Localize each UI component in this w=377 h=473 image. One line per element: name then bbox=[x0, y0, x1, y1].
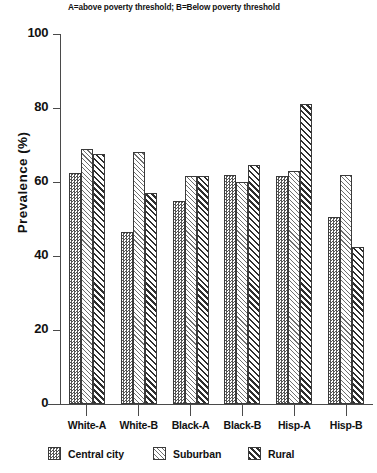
legend-item: Suburban bbox=[153, 447, 221, 460]
y-tick-mark bbox=[53, 182, 61, 183]
bar bbox=[236, 182, 248, 404]
bar bbox=[185, 176, 197, 404]
y-axis-title: Prevalence (%) bbox=[15, 83, 30, 283]
bar bbox=[69, 173, 81, 404]
x-tick-mark bbox=[346, 405, 347, 416]
bar bbox=[133, 152, 145, 404]
bar bbox=[173, 201, 185, 405]
y-tick-mark bbox=[53, 404, 61, 405]
bar-group bbox=[113, 34, 165, 404]
bar bbox=[145, 193, 157, 404]
x-tick-mark bbox=[86, 405, 87, 416]
y-tick-label: 100 bbox=[4, 25, 48, 40]
legend-item: Rural bbox=[248, 447, 294, 460]
y-tick-mark bbox=[53, 108, 61, 109]
x-tick-mark bbox=[294, 405, 295, 416]
y-tick-mark bbox=[53, 330, 61, 331]
x-tick-mark bbox=[138, 405, 139, 416]
bar bbox=[224, 175, 236, 404]
x-tick-mark bbox=[190, 405, 191, 416]
bar bbox=[93, 154, 105, 404]
bar bbox=[300, 104, 312, 404]
bar-group bbox=[320, 34, 372, 404]
bar-group bbox=[268, 34, 320, 404]
legend-swatch-icon bbox=[153, 447, 166, 460]
bar bbox=[81, 149, 93, 404]
bar bbox=[288, 171, 300, 404]
x-tick-mark bbox=[242, 405, 243, 416]
legend-label: Suburban bbox=[173, 448, 221, 460]
bar bbox=[197, 176, 209, 404]
bar-group bbox=[165, 34, 217, 404]
legend-swatch-icon bbox=[48, 447, 61, 460]
legend-item: Central city bbox=[48, 447, 124, 460]
legend-label: Rural bbox=[268, 448, 294, 460]
bar-group bbox=[217, 34, 269, 404]
legend-swatch-icon bbox=[248, 447, 261, 460]
bar bbox=[121, 232, 133, 404]
y-tick-mark bbox=[53, 34, 61, 35]
chart-title: A=above poverty threshold; B=Below pover… bbox=[68, 3, 373, 13]
legend-label: Central city bbox=[68, 448, 124, 460]
y-tick-label: 20 bbox=[4, 321, 48, 336]
y-tick-mark bbox=[53, 256, 61, 257]
y-tick-label: 0 bbox=[4, 395, 48, 410]
bar bbox=[248, 165, 260, 404]
plot-area bbox=[61, 34, 372, 404]
chart-legend: Central citySuburbanRural bbox=[48, 447, 368, 467]
bar bbox=[276, 176, 288, 404]
bar bbox=[352, 247, 364, 404]
bar bbox=[328, 217, 340, 404]
bar bbox=[340, 175, 352, 404]
bar-group bbox=[61, 34, 113, 404]
x-axis-line bbox=[48, 404, 373, 405]
x-tick-label: Hisp-B bbox=[311, 419, 377, 431]
chart-figure: A=above poverty threshold; B=Below pover… bbox=[0, 0, 377, 473]
